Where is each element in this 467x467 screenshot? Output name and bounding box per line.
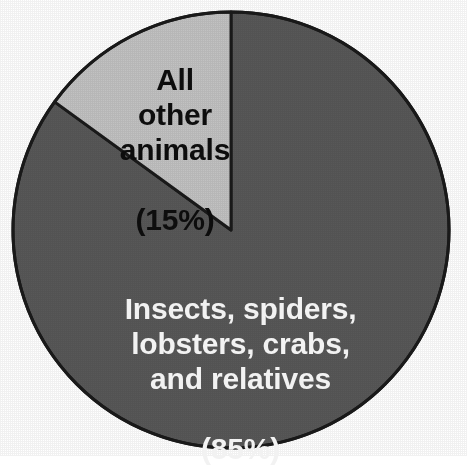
pie-chart-svg — [0, 0, 467, 456]
pie-chart-figure: All other animals (15%) Insects, spiders… — [0, 0, 467, 456]
